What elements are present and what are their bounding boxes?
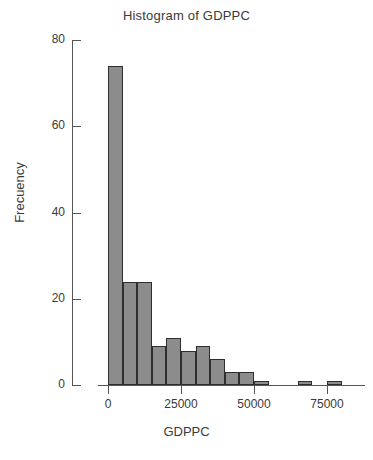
histogram-bar	[152, 346, 167, 385]
histogram-bar	[137, 282, 152, 386]
y-tick-label: 40	[25, 205, 65, 219]
y-tick-mark	[72, 213, 81, 214]
y-tick-mark	[72, 385, 81, 386]
histogram-bar	[225, 372, 240, 385]
plot-area: 020406080 0250005000075000	[0, 0, 373, 460]
y-tick-label: 60	[25, 118, 65, 132]
histogram-bar	[123, 282, 138, 386]
x-tick-mark	[327, 385, 328, 394]
x-axis-title: GDPPC	[0, 424, 373, 439]
histogram-bar	[181, 351, 196, 386]
x-tick-label: 25000	[146, 397, 216, 411]
x-tick-label: 0	[73, 397, 143, 411]
y-tick-label: 80	[25, 32, 65, 46]
histogram-bar	[327, 381, 342, 385]
histogram-bar	[108, 66, 123, 385]
x-tick-mark	[108, 385, 109, 394]
y-tick-mark	[72, 40, 81, 41]
y-tick-mark	[72, 126, 81, 127]
x-tick-label: 75000	[292, 397, 362, 411]
x-tick-mark	[181, 385, 182, 394]
y-axis-title: Frecuency	[12, 138, 27, 248]
histogram-bar	[196, 346, 211, 385]
x-axis-line	[98, 385, 365, 386]
y-tick-label: 20	[25, 291, 65, 305]
x-tick-mark	[254, 385, 255, 394]
histogram-bar	[166, 338, 181, 385]
y-tick-label: 0	[25, 377, 65, 391]
histogram-bar	[239, 372, 254, 385]
histogram-bar	[254, 381, 269, 385]
histogram-chart: Histogram of GDPPC 020406080 02500050000…	[0, 0, 373, 460]
histogram-bar	[298, 381, 313, 385]
y-tick-mark	[72, 299, 81, 300]
histogram-bar	[210, 359, 225, 385]
x-tick-label: 50000	[219, 397, 289, 411]
